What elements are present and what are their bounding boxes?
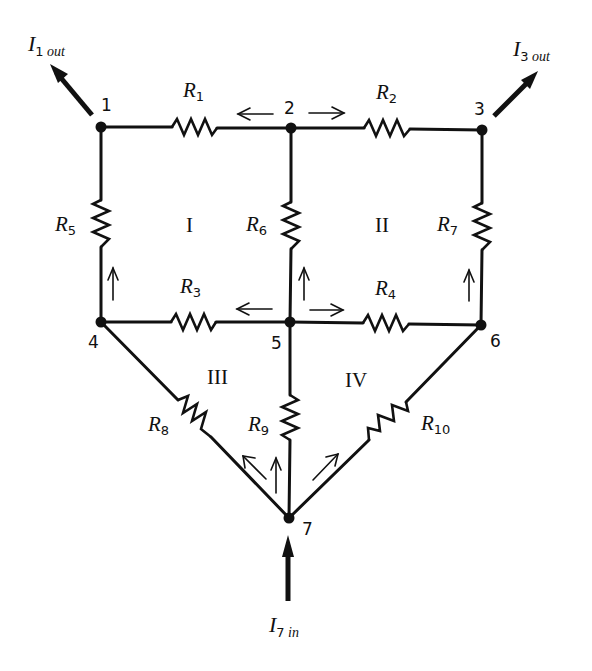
resistor-r8 (178, 396, 211, 437)
wire-5-6 (290, 315, 481, 331)
wire-1-2 (101, 119, 291, 135)
resistor-r9 (282, 395, 298, 440)
resistor-r10 (368, 402, 408, 440)
resistor-label-r8: R8 (148, 414, 169, 437)
wire-3-6 (474, 130, 490, 325)
arrow-r3-left-icon (237, 303, 272, 315)
arrow-r2-right-icon (309, 107, 344, 119)
arrow-r10-upright-icon (313, 454, 338, 480)
current-label-i3-out: I3 out (513, 38, 550, 64)
arrow-r9-up-icon (271, 458, 281, 493)
wire-2-5 (283, 128, 299, 322)
node-label-2: 2 (284, 100, 295, 117)
node-label-1: 1 (101, 97, 112, 114)
node-2 (286, 123, 297, 134)
wire-2-3 (291, 120, 482, 136)
resistor-r5 (93, 200, 109, 247)
arrow-r7-up-icon (464, 270, 474, 301)
node-4 (96, 317, 107, 328)
wire-5-7 (282, 322, 298, 518)
resistor-label-r1: R1 (183, 80, 204, 103)
node-label-4: 4 (88, 334, 99, 351)
arrow-r6-up-icon (299, 268, 309, 300)
node-6 (476, 320, 487, 331)
wire-4-5 (101, 314, 290, 330)
loop-label-3: III (207, 367, 228, 388)
resistor-r6 (283, 202, 299, 249)
node-label-3: 3 (474, 101, 485, 118)
arrow-r1-left-icon (238, 108, 273, 120)
resistor-r3 (171, 314, 216, 330)
loop-label-4: IV (345, 370, 367, 391)
loop-label-2: II (375, 215, 389, 236)
node-5 (285, 317, 296, 328)
resistor-r2 (364, 120, 410, 136)
resistor-label-r6: R6 (246, 214, 267, 237)
arrow-i1-out-icon (50, 64, 92, 115)
resistor-label-r2: R2 (376, 82, 397, 105)
resistor-r1 (172, 119, 217, 135)
loop-label-1: I (186, 215, 193, 236)
arrow-i7-in-icon (282, 535, 294, 601)
resistor-label-r7: R7 (437, 214, 458, 237)
node-1 (96, 122, 107, 133)
resistor-label-r4: R4 (375, 278, 396, 301)
node-label-5: 5 (271, 335, 282, 352)
resistor-label-r9: R9 (248, 414, 269, 437)
current-label-i1-out: I1 out (28, 33, 65, 59)
resistor-label-r10: R10 (421, 413, 450, 436)
node-label-7: 7 (302, 521, 313, 538)
arrow-r4-right-icon (310, 304, 343, 316)
resistor-label-r3: R3 (180, 276, 201, 299)
node-7 (284, 513, 295, 524)
current-label-i7-in: I7 in (269, 614, 299, 640)
resistor-r4 (363, 315, 409, 331)
node-3 (477, 125, 488, 136)
arrow-i3-out-icon (494, 71, 538, 116)
resistor-r7 (474, 203, 490, 250)
wire-1-4 (93, 127, 109, 322)
resistor-label-r5: R5 (55, 214, 76, 237)
node-label-6: 6 (490, 333, 501, 350)
wire-6-7 (289, 325, 481, 518)
arrow-r5-up-icon (108, 268, 118, 300)
